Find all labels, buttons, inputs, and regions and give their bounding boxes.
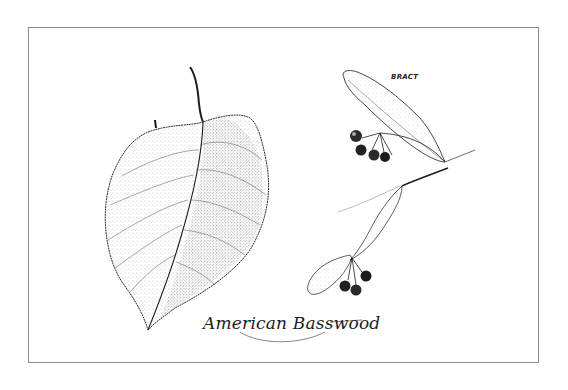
caption-flourish [240, 332, 325, 342]
basswood-leaf [105, 67, 268, 330]
illustration-caption: American Basswood [203, 313, 380, 333]
branch-twig [445, 150, 475, 162]
upper-bract-cluster [343, 71, 445, 162]
lower-bract-cluster [308, 186, 402, 296]
bract-label: BRACT [391, 73, 418, 81]
branch [402, 168, 448, 186]
